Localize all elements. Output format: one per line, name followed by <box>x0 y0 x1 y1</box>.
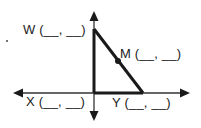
point-label-m: M (__, __) <box>120 47 181 60</box>
point-label-y: Y (__, __) <box>112 96 171 109</box>
y-axis-up-arrow-icon <box>90 11 99 21</box>
x-axis-right-arrow-icon <box>180 89 190 98</box>
y-axis-down-arrow-icon <box>90 111 99 121</box>
stray-dot <box>6 40 8 42</box>
point-label-x: X (__, __) <box>26 95 85 108</box>
x-axis-left-arrow-icon <box>13 89 23 98</box>
point-label-w: W (__, __) <box>23 23 86 36</box>
